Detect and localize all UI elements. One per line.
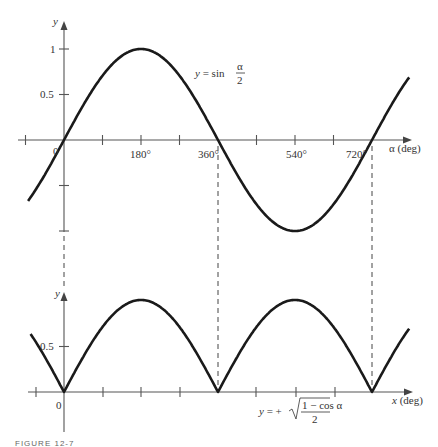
bottom-y-axis-arrow-icon <box>61 292 68 301</box>
top-y-axis-arrow-icon <box>61 21 68 30</box>
top-formula: y = sin α 2 <box>194 60 245 86</box>
top-formula-prefix: = sin <box>200 67 225 79</box>
top-tick-0-5: 0.5 <box>40 88 54 100</box>
svg-text:y = sin: y = sin <box>194 67 225 79</box>
top-plot: y 1 0.5 0 180° 360° 540° 720° α (deg) y … <box>18 15 421 392</box>
tick-720: 720° <box>346 148 367 160</box>
bottom-x-label: x (deg) <box>391 394 423 407</box>
bottom-y-label: y <box>54 287 60 299</box>
bottom-tick-0-5: 0.5 <box>40 340 54 352</box>
svg-text:y = +: y = + <box>258 405 282 417</box>
top-y-label: y <box>52 15 58 27</box>
top-tick-0: 0 <box>53 145 59 157</box>
bottom-formula-den: 2 <box>312 413 318 425</box>
top-formula-den: 2 <box>237 74 243 86</box>
bottom-plot: y 0.5 0 x (deg) y = + 1 − cos α 2 <box>28 287 423 432</box>
bottom-formula-num: 1 − cos α <box>302 399 343 411</box>
bottom-curve-sqrt <box>31 300 410 392</box>
figure-caption: FIGURE 12-7 <box>15 439 74 447</box>
bottom-x-label-unit: (deg) <box>397 394 423 407</box>
tick-180: 180° <box>130 148 151 160</box>
top-x-label: α (deg) <box>389 142 421 155</box>
tick-540: 540° <box>286 148 307 160</box>
figure: y 1 0.5 0 180° 360° 540° 720° α (deg) y … <box>0 0 438 447</box>
bottom-tick-0: 0 <box>56 399 62 411</box>
tick-360: 360° <box>198 148 219 160</box>
bottom-formula: y = + 1 − cos α 2 <box>258 398 343 425</box>
top-tick-1: 1 <box>50 43 56 55</box>
top-formula-num: α <box>237 60 243 72</box>
